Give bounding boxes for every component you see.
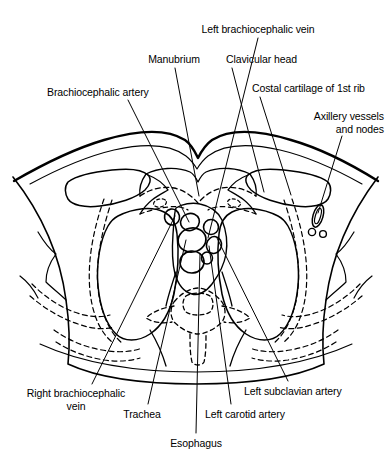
label-left-carotid-artery: Left carotid artery (205, 408, 315, 421)
manubrium-body (146, 168, 250, 182)
leader-axillery-vessels (318, 136, 342, 213)
clavicle-left-joint-dashes (140, 207, 188, 214)
leader-right-brachiocephalic-vein (92, 216, 175, 384)
rib-right-arc (274, 200, 299, 343)
skin-outline-upper (14, 132, 378, 181)
axillary-vessel-main (310, 204, 326, 229)
leader-esophagus (196, 254, 200, 433)
label-axillery-vessels-and-nodes: Axillery vessels and nodes (274, 110, 384, 135)
label-clavicular-head: Clavicular head (226, 53, 326, 66)
lung-left-field (97, 209, 178, 340)
vessel-right-brachiocephalic-vein (163, 208, 181, 226)
body-wall-inner-lower (40, 344, 352, 372)
rib-right-lower-2 (278, 296, 362, 329)
rib-right-costal-cartilage (284, 199, 307, 342)
leader-left-subclavian-artery (217, 238, 288, 381)
leader-trachea (148, 240, 186, 404)
label-brachiocephalic-artery: Brachiocephalic artery (47, 86, 187, 99)
label-left-brachiocephalic-vein: Left brachiocephalic vein (182, 23, 334, 36)
muscle-contour-right (326, 232, 354, 300)
rib-left-lower-2 (30, 296, 114, 329)
label-left-subclavian-artery: Left subclavian artery (244, 385, 384, 398)
label-trachea: Trachea (117, 408, 167, 421)
anatomy-figure: Left brachiocephalic vein Manubrium Clav… (0, 0, 391, 475)
muscle-contour-left (38, 232, 66, 300)
clavicle-left-head (65, 169, 150, 206)
leader-left-carotid-artery (209, 246, 231, 404)
spinal-canal (183, 293, 213, 315)
paravertebral-contour-right (230, 330, 246, 366)
rib-left-costal-cartilage (89, 199, 112, 342)
vessel-small-left (153, 198, 167, 209)
rib-left-arc (97, 200, 122, 343)
axillary-node-1 (308, 228, 315, 235)
leader-brachiocephalic-artery (128, 100, 189, 222)
label-esophagus: Esophagus (160, 437, 232, 450)
axillary-node-2 (320, 231, 327, 238)
label-manubrium: Manubrium (134, 53, 214, 66)
label-costal-cartilage-of-1st-rib: Costal cartilage of 1st rib (252, 82, 391, 95)
